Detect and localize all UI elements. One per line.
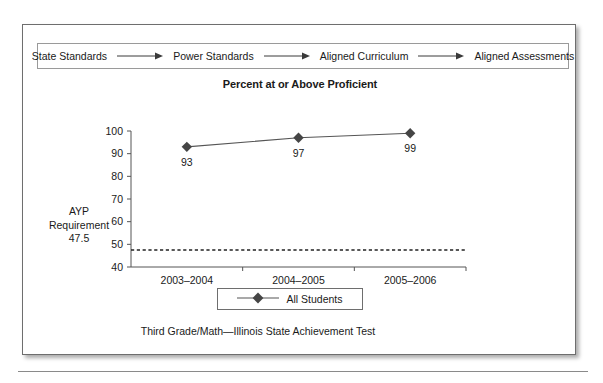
y-tick-label: 100	[105, 125, 123, 137]
process-flow-bar: State Standards Power Standards Aligned …	[37, 43, 569, 69]
y-tick-label: 90	[111, 147, 123, 159]
flow-step-aligned-curriculum: Aligned Curriculum	[319, 51, 410, 62]
flow-step-aligned-assessments: Aligned Assessments	[473, 51, 575, 62]
right-arrow-icon	[418, 51, 464, 61]
diamond-marker-icon	[237, 290, 279, 308]
x-axis-category-label: 2005–2006	[384, 274, 437, 286]
line-chart-plot: 4050607080901002003–20042004–20052005–20…	[23, 91, 523, 301]
y-tick-label: 60	[111, 215, 123, 227]
chart-title: Percent at or Above Proficient	[23, 78, 577, 90]
data-point-value-label: 99	[404, 142, 416, 154]
figure-frame: State Standards Power Standards Aligned …	[22, 24, 576, 355]
y-tick-label: 40	[111, 261, 123, 273]
y-tick-label: 80	[111, 170, 123, 182]
page-divider-rule	[18, 371, 588, 372]
right-arrow-icon	[264, 51, 310, 61]
data-point-marker	[405, 128, 415, 138]
legend-label-all-students: All Students	[286, 294, 342, 305]
x-axis-category-label: 2004–2005	[272, 274, 325, 286]
flow-step-state-standards: State Standards	[31, 51, 108, 62]
flow-step-power-standards: Power Standards	[172, 51, 255, 62]
right-arrow-icon	[117, 51, 163, 61]
x-axis-category-label: 2003–2004	[161, 274, 214, 286]
y-tick-label: 50	[111, 238, 123, 250]
data-point-marker	[293, 133, 303, 143]
y-tick-label: 70	[111, 193, 123, 205]
chart-caption: Third Grade/Math—Illinois State Achievem…	[23, 325, 493, 337]
data-point-value-label: 97	[293, 147, 305, 159]
data-point-marker	[182, 142, 192, 152]
data-point-value-label: 93	[181, 156, 193, 168]
chart-legend: All Students	[217, 288, 363, 310]
